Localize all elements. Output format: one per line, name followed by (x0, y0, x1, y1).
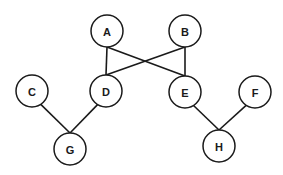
node-label: A (103, 26, 111, 38)
node-d: D (90, 75, 122, 107)
node-g: G (54, 133, 86, 165)
node-h: H (203, 130, 235, 162)
edge-a-d (106, 47, 107, 75)
node-label: H (215, 141, 223, 153)
node-label: B (181, 26, 189, 38)
graph-diagram: ABCDEFGH (0, 0, 283, 175)
node-label: F (252, 87, 259, 99)
node-label: D (102, 86, 110, 98)
node-label: E (181, 87, 188, 99)
graph-canvas: ABCDEFGH (0, 0, 283, 175)
edge-d-g (70, 105, 98, 133)
node-a: A (91, 15, 123, 47)
edge-f-h (219, 105, 246, 130)
edge-c-g (41, 104, 70, 133)
edges-layer (41, 47, 246, 133)
nodes-layer: ABCDEFGH (16, 15, 271, 165)
edge-e-h (194, 106, 219, 130)
node-label: G (66, 144, 75, 156)
node-label: C (28, 86, 36, 98)
node-b: B (169, 15, 201, 47)
node-e: E (169, 76, 201, 108)
node-f: F (239, 76, 271, 108)
node-c: C (16, 75, 48, 107)
